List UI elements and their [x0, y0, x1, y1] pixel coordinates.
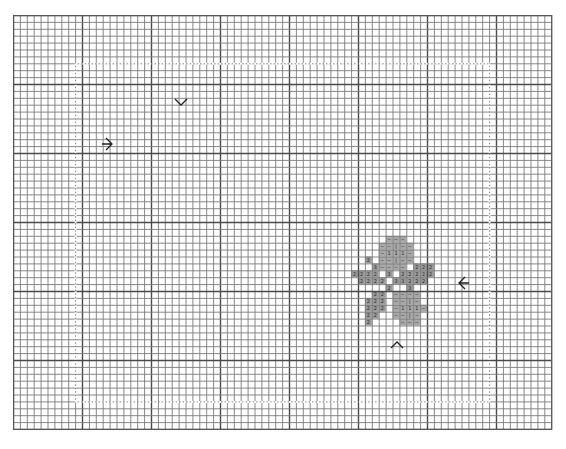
- stitch-symbol: 1: [394, 250, 397, 256]
- stitch-symbol: 2: [381, 298, 384, 304]
- stitch-symbol: 2: [374, 291, 377, 297]
- stitch-symbol: 2: [408, 271, 411, 277]
- stitch-symbol: 2: [367, 298, 370, 304]
- left-center-marker-icon: [101, 136, 117, 152]
- stitch-symbol: 2: [367, 312, 370, 318]
- stitch-symbol: 2: [367, 305, 370, 311]
- stitch-symbol: 3: [388, 271, 391, 277]
- stitch-symbol: 2: [381, 278, 384, 284]
- stitch-symbol: 2: [367, 257, 370, 263]
- stitch-symbol: 2: [381, 305, 384, 311]
- stitch-symbol: 3: [394, 278, 397, 284]
- stitch-symbol: 1: [415, 305, 418, 311]
- stitch-symbol: 2: [429, 264, 432, 270]
- stitch-symbol: 2: [381, 291, 384, 297]
- stitch-symbol: 1: [408, 305, 411, 311]
- pattern-grid[interactable]: —————|———111—2——|——3————2222222322222222…: [13, 15, 551, 431]
- stitch-symbol: 2: [429, 271, 432, 277]
- stitch-symbol: 2: [374, 298, 377, 304]
- stitch-symbol: 2: [360, 271, 363, 277]
- stitch-symbol: 2: [401, 271, 404, 277]
- right-center-marker-icon: [454, 275, 470, 291]
- stitch-symbol: 2: [367, 278, 370, 284]
- stitch-symbol: 2: [422, 271, 425, 277]
- stitch-symbol: 3: [374, 264, 377, 270]
- stitch-symbol: 2: [388, 285, 391, 291]
- top-center-marker-icon: [173, 94, 189, 110]
- stitch-symbol: 3: [401, 278, 404, 284]
- stitch-symbol: 2: [408, 278, 411, 284]
- stitch-symbol: 2: [422, 264, 425, 270]
- stitch-symbol: 2: [415, 271, 418, 277]
- stitch-symbol: 3: [408, 285, 411, 291]
- stitch-symbol: 2: [367, 271, 370, 277]
- stitch-symbol: 2: [374, 278, 377, 284]
- stitch-symbol: 2: [374, 305, 377, 311]
- stitch-symbol: 2: [374, 312, 377, 318]
- stitch-symbol: 1: [401, 305, 404, 311]
- stitch-symbol: 2: [415, 264, 418, 270]
- stitch-symbol: 1: [401, 250, 404, 256]
- stitch-symbol: 2: [360, 278, 363, 284]
- grid-svg: —————|———111—2——|——3————2222222322222222…: [13, 15, 553, 430]
- stitch-symbol: 2: [415, 278, 418, 284]
- stitch-symbol: 1: [388, 250, 391, 256]
- stitch-symbol: 2: [367, 319, 370, 325]
- stitch-symbol: 2: [374, 271, 377, 277]
- bottom-center-marker-icon: [389, 337, 405, 353]
- stitch-symbol: 2: [353, 271, 356, 277]
- stitch-symbol: 2: [422, 278, 425, 284]
